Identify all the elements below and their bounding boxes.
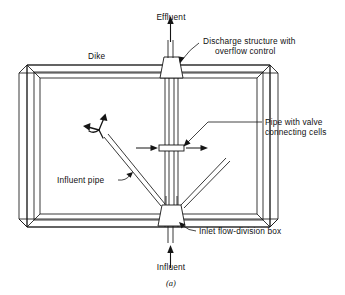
- branching-flow-arrow-icon: [83, 114, 107, 139]
- influent-label: Influent: [146, 262, 196, 272]
- inlet-box-leader-icon: [179, 222, 196, 231]
- connecting-pipe-with-valve: [159, 145, 184, 151]
- branch-arrow-stem: [99, 130, 103, 138]
- figure-caption: (a): [166, 278, 176, 288]
- influent-arrow-head: [167, 245, 173, 253]
- discharge-structure-leader-icon: [179, 43, 199, 64]
- influent-pipe-leader-icon: [118, 172, 133, 180]
- figure-container: Effluent Dike Discharge structure with o…: [0, 0, 345, 295]
- influent-pipe-leader-curve: [118, 175, 130, 180]
- dike-outer-left-face: [19, 65, 27, 227]
- influent-pipe-right-wall-b: [184, 161, 230, 208]
- influent-pipe-center-stub: [166, 196, 177, 205]
- discharge-structure-label-line1: Discharge structure with: [203, 36, 296, 46]
- influent-pipe-right-wall-a: [181, 158, 226, 205]
- influent-pipe-left-wall-b: [108, 134, 165, 204]
- pipe-with-valve-label-line2: connecting cells: [265, 127, 326, 137]
- branch-arrow-left-head: [83, 123, 91, 131]
- dike-corner-tick-bl: [27, 220, 34, 227]
- dike-corner-tick-tl: [27, 65, 34, 72]
- valve-body: [159, 145, 184, 151]
- influent-pipe-left-cell: [104, 134, 165, 206]
- influent-pipe-leader-arrowhead: [126, 172, 133, 178]
- effluent-label: Effluent: [146, 12, 196, 22]
- dike-berm: [19, 65, 278, 227]
- valve-leader-line: [186, 122, 262, 144]
- dike-label: Dike: [88, 51, 105, 61]
- influent-pipe-label: Influent pipe: [57, 175, 104, 185]
- influent-pipe-right-cell: [181, 158, 230, 208]
- dike-inner-crest: [34, 72, 263, 220]
- flow-arrow-right-head: [201, 145, 209, 151]
- discharge-structure-label-line2: overflow control: [215, 46, 276, 56]
- pipe-with-valve-label-line1: Pipe with valve: [265, 117, 323, 127]
- valve-leader-icon: [184, 122, 263, 147]
- dike-corner-tick-tr: [263, 65, 270, 72]
- branch-arrow-up-head: [100, 114, 108, 122]
- discharge-leader-curve: [182, 43, 199, 60]
- branch-arrow-tail: [89, 130, 99, 132]
- influent-supply-pipe: [168, 226, 173, 243]
- inlet-flow-division-box-label: Inlet flow-division box: [199, 226, 281, 236]
- effluent-riser-pipe: [168, 40, 173, 58]
- dike-inner-toe: [40, 78, 257, 214]
- dike-outer-right-face: [270, 65, 278, 227]
- dike-crest-line: [27, 65, 270, 227]
- flow-arrow-left-head: [151, 145, 159, 151]
